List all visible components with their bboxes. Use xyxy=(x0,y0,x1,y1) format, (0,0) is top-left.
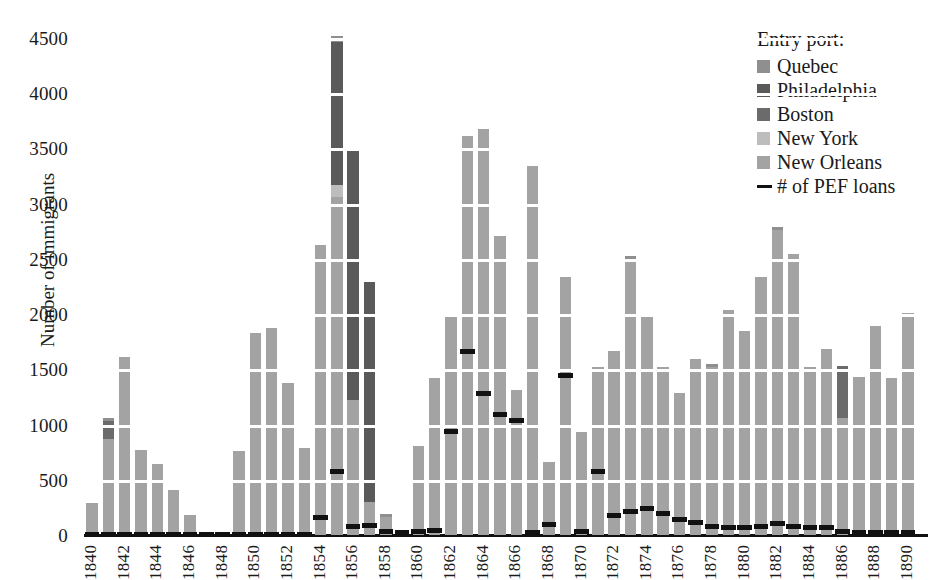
bar-segment xyxy=(576,432,587,535)
bar-group[interactable] xyxy=(739,331,750,535)
bar-group[interactable] xyxy=(886,378,897,535)
pef-loan-marker xyxy=(313,515,328,520)
bar-group[interactable] xyxy=(315,245,326,535)
bar-group[interactable] xyxy=(429,378,440,535)
bar-segment xyxy=(886,378,897,535)
bar-group[interactable] xyxy=(511,390,522,535)
bar-group[interactable] xyxy=(641,314,652,535)
bar-group[interactable] xyxy=(478,129,489,535)
bar-group[interactable] xyxy=(168,490,179,535)
pef-loan-marker xyxy=(770,521,785,526)
bar-group[interactable] xyxy=(233,451,244,535)
bar-segment xyxy=(299,448,310,535)
bar-group[interactable] xyxy=(413,446,424,535)
bar-group[interactable] xyxy=(299,448,310,535)
bar-group[interactable] xyxy=(445,317,456,535)
pef-loan-marker xyxy=(525,530,540,535)
x-axis-tick-label: 1890 xyxy=(900,545,914,580)
x-axis-tick-label: 1888 xyxy=(867,545,881,580)
pef-loan-marker xyxy=(705,524,720,529)
bar-group[interactable] xyxy=(608,351,619,535)
bar-group[interactable] xyxy=(494,236,505,535)
x-axis-tick-label: 1840 xyxy=(84,545,98,580)
plot-area xyxy=(84,38,916,535)
bar-segment xyxy=(674,393,685,535)
bar-group[interactable] xyxy=(364,282,375,535)
bar-group[interactable] xyxy=(135,450,146,535)
pef-loan-marker xyxy=(737,525,752,530)
bar-group[interactable] xyxy=(103,418,114,535)
pef-loan-marker xyxy=(852,530,867,535)
pef-loan-marker xyxy=(656,511,671,516)
pef-loan-marker xyxy=(379,529,394,534)
bar-group[interactable] xyxy=(152,464,163,535)
bar-segment xyxy=(282,383,293,535)
bar-segment xyxy=(706,367,717,535)
pef-loan-marker xyxy=(101,532,116,537)
x-axis-tick-label: 1864 xyxy=(476,545,490,580)
pef-loan-marker xyxy=(215,532,230,537)
bar-segment xyxy=(527,166,538,535)
pef-loan-marker xyxy=(819,525,834,530)
pef-loan-marker xyxy=(721,525,736,530)
bar-segment xyxy=(347,151,358,401)
pef-loan-marker xyxy=(117,532,132,537)
bar-segment xyxy=(103,439,114,535)
pef-loan-marker xyxy=(264,532,279,537)
bar-segment xyxy=(331,185,342,197)
pef-loan-marker xyxy=(134,532,149,537)
x-axis-tick-label: 1880 xyxy=(737,545,751,580)
bar-segment xyxy=(331,42,342,184)
bar-group[interactable] xyxy=(837,366,848,535)
bar-group[interactable] xyxy=(788,254,799,535)
bar-group[interactable] xyxy=(804,367,815,535)
x-axis: 1840184218441846184818501852185418561858… xyxy=(84,540,916,580)
bar-segment xyxy=(690,359,701,535)
bar-group[interactable] xyxy=(625,256,636,535)
x-axis-tick-label: 1858 xyxy=(378,545,392,580)
bar-group[interactable] xyxy=(462,136,473,535)
bar-segment xyxy=(103,421,114,439)
pef-loan-marker xyxy=(427,528,442,533)
x-axis-tick-label: 1860 xyxy=(410,545,424,580)
x-axis-tick-label: 1882 xyxy=(769,545,783,580)
bar-group[interactable] xyxy=(527,166,538,535)
bar-segment xyxy=(250,333,261,535)
bar-group[interactable] xyxy=(560,277,571,535)
bar-group[interactable] xyxy=(592,367,603,535)
immigration-chart: 050010001500200025003000350040004500 Num… xyxy=(0,0,938,580)
bar-group[interactable] xyxy=(902,313,913,535)
bar-segment xyxy=(788,254,799,535)
bar-segment xyxy=(739,331,750,535)
bar-group[interactable] xyxy=(821,349,832,535)
bar-segment xyxy=(86,503,97,535)
bar-group[interactable] xyxy=(331,36,342,535)
bar-group[interactable] xyxy=(755,277,766,535)
x-axis-tick-label: 1852 xyxy=(280,545,294,580)
bar-segment xyxy=(772,230,783,535)
pef-loan-marker xyxy=(346,524,361,529)
bar-group[interactable] xyxy=(119,357,130,535)
bar-segment xyxy=(837,366,848,418)
bar-group[interactable] xyxy=(723,310,734,535)
bar-group[interactable] xyxy=(690,359,701,535)
pef-loan-marker xyxy=(607,513,622,518)
bar-group[interactable] xyxy=(282,383,293,535)
bar-segment xyxy=(853,377,864,535)
bar-group[interactable] xyxy=(657,367,668,535)
bar-segment xyxy=(103,418,114,421)
bar-group[interactable] xyxy=(853,377,864,535)
x-axis-tick-label: 1874 xyxy=(639,545,653,580)
bar-group[interactable] xyxy=(250,333,261,535)
bar-group[interactable] xyxy=(674,393,685,535)
bar-segment xyxy=(657,367,668,535)
bar-group[interactable] xyxy=(576,432,587,535)
x-axis-tick-label: 1868 xyxy=(541,545,555,580)
bar-group[interactable] xyxy=(706,364,717,535)
bar-segment xyxy=(119,357,130,535)
bar-group[interactable] xyxy=(266,328,277,535)
bar-group[interactable] xyxy=(870,326,881,535)
bar-group[interactable] xyxy=(347,151,358,535)
bar-group[interactable] xyxy=(86,503,97,535)
bar-group[interactable] xyxy=(772,227,783,535)
